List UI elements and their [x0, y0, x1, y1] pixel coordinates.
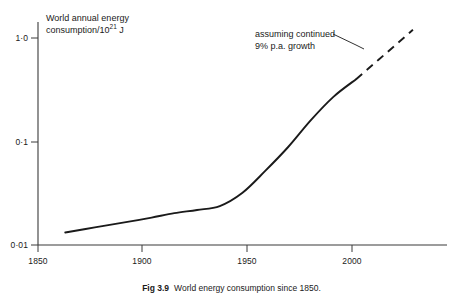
x-tick-label-2000: 2000 — [332, 256, 372, 266]
figure-caption-text: World energy consumption since 1850. — [174, 283, 321, 293]
growth-annotation-line2: 9% p.a. growth — [255, 41, 315, 51]
figure-caption-label: Fig 3.9 — [142, 283, 169, 293]
growth-annotation-line1: assuming continued — [255, 29, 335, 39]
y-tick-label-1: 1·0 — [0, 33, 28, 43]
y-axis-title-line2-suffix: J — [117, 25, 124, 35]
x-tick-label-1850: 1850 — [18, 256, 58, 266]
series-line-projection — [356, 30, 413, 79]
annotation-leader-line — [333, 34, 364, 49]
y-axis-title-line2-prefix: consumption/10 — [46, 25, 110, 35]
y-tick-label-0-01: 0·01 — [0, 240, 28, 250]
y-axis-title-line1: World annual energy — [46, 13, 129, 23]
y-axis-title: World annual energy consumption/1021 J — [46, 12, 129, 36]
growth-annotation: assuming continued 9% p.a. growth — [255, 28, 335, 52]
x-tick-label-1900: 1900 — [122, 256, 162, 266]
figure-container: World annual energy consumption/1021 J a… — [0, 0, 463, 302]
figure-caption: Fig 3.9World energy consumption since 18… — [0, 283, 463, 293]
y-axis-title-exponent: 21 — [110, 23, 117, 30]
x-tick-label-1950: 1950 — [227, 256, 267, 266]
y-tick-label-0-1: 0·1 — [0, 137, 28, 147]
series-line-historical — [65, 79, 356, 232]
